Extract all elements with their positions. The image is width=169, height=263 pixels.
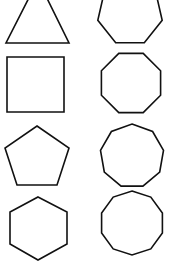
polygon-diagram [0,0,169,263]
square-shape [7,57,64,112]
hexagon-shape [10,197,67,260]
heptagon-shape [98,0,162,43]
triangle-shape [6,0,69,43]
decagon-shape [102,191,163,255]
pentagon-shape [5,126,69,185]
octagon-shape [101,53,160,112]
nonagon-shape [101,124,164,186]
